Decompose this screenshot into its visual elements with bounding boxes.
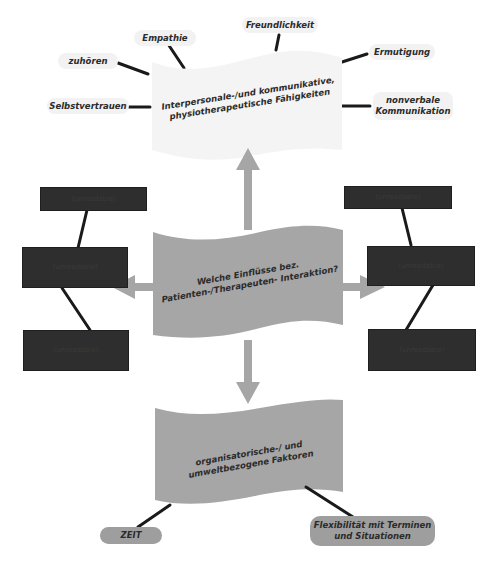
- arrow-down-icon: [236, 382, 260, 404]
- right-box-3: (unreadable): [368, 329, 476, 371]
- right-box-1: (unreadable): [344, 186, 452, 209]
- left-box-1: (unreadable): [40, 187, 147, 211]
- left-box-3: (unreadable): [23, 330, 129, 371]
- node-nonverbale-kommunikation: nonverbale Kommunikation: [373, 92, 453, 120]
- node-empathie: Empathie: [134, 30, 196, 46]
- node-ermutigung: Ermutigung: [369, 44, 435, 60]
- node-selbstvertrauen: Selbstvertrauen: [47, 98, 129, 114]
- left-box-2: (unreadable): [22, 247, 128, 288]
- node-zuhoeren: zuhören: [58, 53, 118, 69]
- node-freundlichkeit: Freundlichkeit: [242, 17, 318, 33]
- right-box-2: (unreadable): [367, 246, 475, 286]
- node-flexibilitaet: Flexibilität mit Terminen und Situatione…: [310, 516, 435, 546]
- node-zeit: ZEIT: [100, 527, 162, 544]
